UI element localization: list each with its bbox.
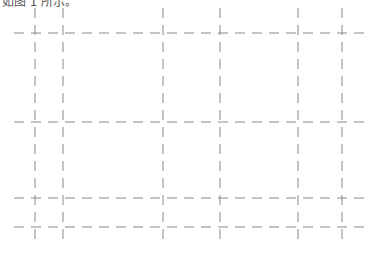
dashed-grid-diagram: [0, 0, 378, 257]
